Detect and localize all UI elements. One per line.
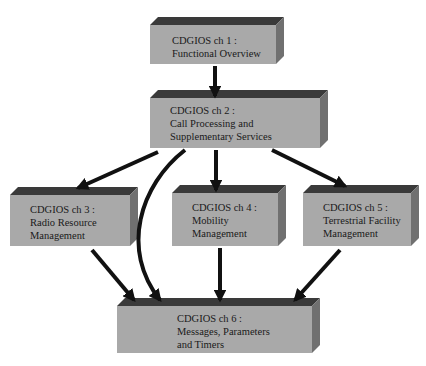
chapter-subtitle-line: Management — [192, 227, 257, 240]
chapter-subtitle-line: Mobility — [192, 214, 257, 227]
chapter-subtitle-line: Functional Overview — [172, 47, 261, 60]
chapter-box-ch2: CDGIOS ch 2 :Call Processing andSuppleme… — [150, 98, 320, 148]
chapter-box-ch3: CDGIOS ch 3 :Radio ResourceManagement — [10, 195, 130, 246]
arrow-ch2-to-ch5 — [272, 150, 345, 186]
chapter-subtitle-line: Messages, Parameters — [177, 325, 270, 338]
chapter-box-ch4: CDGIOS ch 4 :MobilityManagement — [172, 193, 278, 246]
chapter-title: CDGIOS ch 1 : — [172, 34, 261, 47]
chapter-subtitle-line: and Timers — [177, 338, 270, 351]
chapter-label: CDGIOS ch 6 :Messages, Parametersand Tim… — [177, 312, 270, 351]
chapter-label: CDGIOS ch 1 :Functional Overview — [172, 34, 261, 60]
chapter-title: CDGIOS ch 5 : — [323, 201, 401, 214]
chapter-subtitle-line: Terrestrial Facility — [323, 214, 401, 227]
chapter-label: CDGIOS ch 5 :Terrestrial FacilityManagem… — [323, 201, 401, 240]
chapter-subtitle-line: Management — [30, 229, 97, 242]
chapter-subtitle-line: Management — [323, 227, 401, 240]
chapter-title: CDGIOS ch 6 : — [177, 312, 270, 325]
chapter-label: CDGIOS ch 2 :Call Processing andSuppleme… — [170, 104, 272, 143]
chapter-subtitle-line: Call Processing and — [170, 117, 272, 130]
chapter-title: CDGIOS ch 3 : — [30, 203, 97, 216]
arrow-ch2-to-ch3 — [78, 152, 158, 188]
chapter-label: CDGIOS ch 3 :Radio ResourceManagement — [30, 203, 97, 242]
chapter-subtitle-line: Supplementary Services — [170, 130, 272, 143]
arrow-ch5-to-ch6 — [295, 250, 340, 300]
arrow-ch3-to-ch6 — [92, 250, 134, 300]
chapter-box-ch5: CDGIOS ch 5 :Terrestrial FacilityManagem… — [303, 193, 411, 246]
chapter-box-ch1: CDGIOS ch 1 :Functional Overview — [150, 25, 276, 64]
diagram-canvas: CDGIOS ch 1 :Functional OverviewCDGIOS c… — [0, 0, 426, 366]
chapter-label: CDGIOS ch 4 :MobilityManagement — [192, 201, 257, 240]
chapter-title: CDGIOS ch 2 : — [170, 104, 272, 117]
chapter-subtitle-line: Radio Resource — [30, 216, 97, 229]
chapter-title: CDGIOS ch 4 : — [192, 201, 257, 214]
chapter-box-ch6: CDGIOS ch 6 :Messages, Parametersand Tim… — [117, 306, 312, 353]
